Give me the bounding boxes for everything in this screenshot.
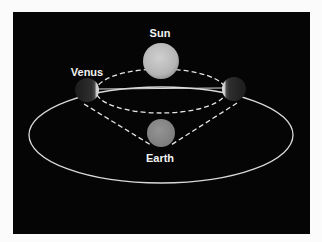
sun-label: Sun <box>150 27 171 39</box>
venus-right-icon <box>222 77 246 101</box>
sightline-left-dashed <box>84 104 151 145</box>
earth-icon <box>147 119 175 147</box>
sightline-right-dashed <box>171 103 237 145</box>
earth-label: Earth <box>146 152 174 164</box>
sun-icon <box>143 43 179 79</box>
venus-label: Venus <box>71 66 103 78</box>
figure-frame: Sun Venus Earth <box>0 0 322 242</box>
venus-phases-diagram: Sun Venus Earth <box>0 0 322 242</box>
venus-left-icon <box>75 78 99 102</box>
